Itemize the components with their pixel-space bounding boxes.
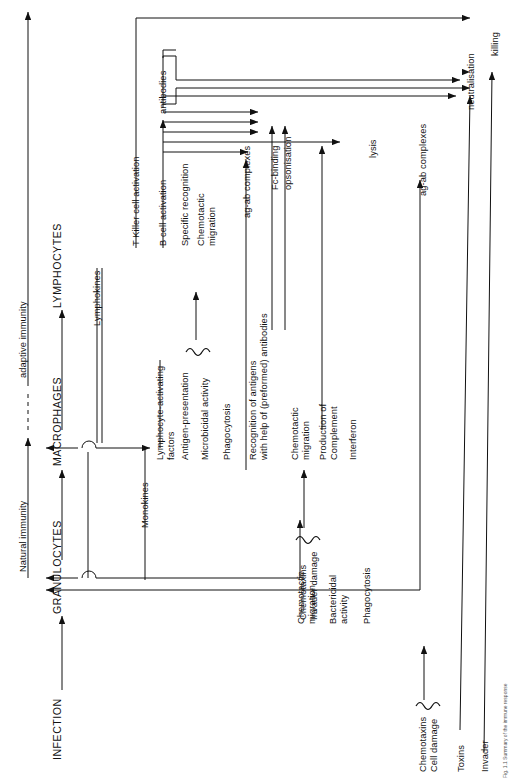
printed-t-killer-cell-activation: T Killer cell activation (131, 156, 142, 246)
printed-production-of-complement: Production of Complement (318, 404, 339, 460)
printed-lymphokines: Lymphokines (92, 270, 103, 326)
printed-lymphocytes: LYMPHOCYTES (52, 223, 63, 308)
printed-chemotaxins-invader-damage: Chemotaxins Invader damage (298, 551, 319, 620)
printed-b-cell-activation: B cell activation (158, 180, 169, 246)
printed-infection: INFECTION (52, 698, 63, 760)
printed-lymphocyte-activating-factors: Lymphocyte-activating factors (155, 366, 176, 460)
figure-caption: Fig. 1.1 Summary of the immune response (500, 684, 511, 779)
printed-chemotaxins-cell-damage: Chemotaxins Cell damage (418, 717, 439, 772)
printed-recognition-of-antigens: Recognition of antigens with help of (pr… (248, 313, 269, 460)
printed-fc-binding: Fc-binding (270, 146, 281, 190)
figure-canvas: 3 (0, 0, 516, 782)
printed-ag-ab-complexes-mid: ag-ab complexes (242, 146, 253, 218)
printed-monokines: Monokines (140, 482, 151, 528)
printed-specific-recognition: Specific recognition (180, 163, 191, 246)
printed-adaptive-immunity: adaptive immunity (18, 301, 29, 378)
printed-killing: killing (490, 32, 501, 56)
printed-granulocyte-phagocytosis: Phagocytosis (362, 568, 373, 625)
printed-lymphocyte-chemotactic-migration: Chemotactic migration (196, 193, 217, 246)
printed-macrophage-chemotactic-migration: Chemotactic migration (290, 407, 311, 460)
printed-opsonisation: opsonisation (283, 137, 294, 190)
printed-granulocyte-bactericidal-activity: Bactericidal activity (328, 575, 349, 624)
printed-natural-immunity: Natural immunity (18, 501, 29, 572)
printed-macrophages: MACROPHAGES (52, 377, 63, 466)
printed-ag-ab-complexes-right: ag-ab complexes (418, 124, 429, 196)
printed-interferon: Interferon (348, 419, 359, 460)
printed-microbicidal-activity: Microbicidal activity (200, 378, 211, 460)
printed-page: Natural immunity adaptive immunity INFEC… (0, 0, 516, 782)
printed-macrophage-phagocytosis: Phagocytosis (222, 404, 233, 461)
printed-neutralisation: neutralisation (466, 53, 477, 110)
printed-antigen-presentation: Antigen-presentation (180, 372, 191, 460)
printed-invader: Invader (480, 740, 491, 772)
printed-toxins: Toxins (456, 745, 467, 772)
printed-granulocytes: GRANULOCYTES (52, 520, 63, 614)
printed-antibodies: antibodies (158, 71, 169, 114)
printed-lysis: lysis (368, 139, 379, 158)
